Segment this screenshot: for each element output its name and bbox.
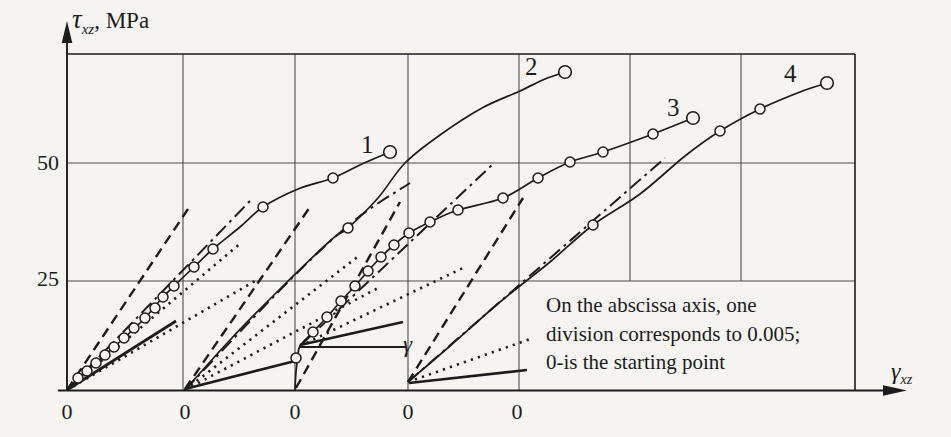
data-point-curve-3 xyxy=(425,217,435,227)
data-point-curve-1 xyxy=(158,292,168,302)
data-point-curve-1 xyxy=(189,262,199,272)
annotation-line-3: 0-is the starting point xyxy=(546,348,800,377)
data-point-curve-1 xyxy=(140,313,150,323)
data-point-curve-3 xyxy=(533,173,543,183)
origin-zero-label-3: 0 xyxy=(286,399,304,425)
stress-strain-chart xyxy=(0,0,951,437)
y-axis-label: τxz, MPa xyxy=(72,4,149,38)
data-point-curve-1 xyxy=(119,333,129,343)
data-point-curve-4 xyxy=(588,220,598,230)
data-point-curve-1 xyxy=(150,303,160,313)
origin-zero-label-1: 0 xyxy=(58,399,76,425)
tau-symbol: τ xyxy=(72,4,82,34)
data-point-curve-3 xyxy=(404,228,414,238)
data-point-curve-3 xyxy=(291,353,301,363)
end-point-curve-1 xyxy=(384,146,397,159)
y-tick-50: 50 xyxy=(27,150,59,176)
data-point-curve-4 xyxy=(755,104,765,114)
data-point-curve-3 xyxy=(363,266,373,276)
annotation-block: On the abscissa axis, one division corre… xyxy=(546,291,800,377)
end-point-curve-3 xyxy=(687,112,700,125)
curve-label-3: 3 xyxy=(667,94,680,122)
x-axis-label: γxz xyxy=(891,358,912,388)
data-point-curve-3 xyxy=(322,312,332,322)
curve-label-4: 4 xyxy=(784,60,797,88)
data-point-curve-3 xyxy=(648,129,658,139)
data-point-curve-1 xyxy=(208,244,218,254)
data-point-curve-1 xyxy=(73,373,83,383)
data-point-curve-1 xyxy=(129,323,139,333)
data-point-curve-3 xyxy=(565,157,575,167)
origin-zero-label-5: 0 xyxy=(508,399,526,425)
annotation-line-2: division corresponds to 0.005; xyxy=(546,320,800,349)
data-point-curve-4 xyxy=(715,126,725,136)
curve-label-1: 1 xyxy=(361,131,374,159)
data-point-curve-1 xyxy=(258,202,268,212)
data-point-curve-1 xyxy=(91,358,101,368)
data-point-curve-3 xyxy=(389,240,399,250)
y-tick-25: 25 xyxy=(27,266,59,292)
gamma-axis-marker: γ xyxy=(403,332,412,358)
curve-label-2: 2 xyxy=(525,53,538,81)
origin-zero-label-4: 0 xyxy=(399,399,417,425)
gamma-subscript: xz xyxy=(900,372,912,387)
data-point-curve-3 xyxy=(350,281,360,291)
data-point-curve-1 xyxy=(109,342,119,352)
figure-background xyxy=(0,0,951,437)
data-point-curve-3 xyxy=(336,296,346,306)
y-axis-unit: , MPa xyxy=(94,8,149,33)
data-point-curve-3 xyxy=(308,327,318,337)
figure-page: τxz, MPa γxz 50 25 0 0 0 0 0 1 2 3 4 γ O… xyxy=(0,0,951,437)
data-point-curve-3 xyxy=(376,252,386,262)
data-point-curve-3 xyxy=(598,147,608,157)
end-point-curve-2 xyxy=(559,66,572,79)
end-point-curve-4 xyxy=(821,77,834,90)
data-point-curve-3 xyxy=(453,205,463,215)
origin-zero-label-2: 0 xyxy=(176,399,194,425)
tau-subscript: xz xyxy=(82,21,95,37)
data-point-curve-1 xyxy=(328,173,338,183)
data-point-curve-2 xyxy=(343,223,353,233)
data-point-curve-1 xyxy=(82,366,92,376)
data-point-curve-1 xyxy=(169,281,179,291)
data-point-curve-3 xyxy=(498,193,508,203)
data-point-curve-1 xyxy=(100,350,110,360)
annotation-line-1: On the abscissa axis, one xyxy=(546,291,800,320)
